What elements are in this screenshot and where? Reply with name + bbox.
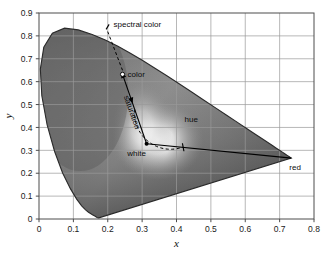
chromaticity-diagram-figure: 00.10.20.30.40.50.60.70.8 00.10.20.30.40… [0,0,333,260]
white-point-marker [145,142,149,146]
x-tick-labels: 00.10.20.30.40.50.60.70.8 [37,224,321,234]
x-tick-label: 0.5 [205,224,217,234]
y-tick-label: 0.8 [21,31,33,41]
y-tick-label: 0.6 [21,77,33,87]
x-tick-label: 0.8 [308,224,320,234]
x-tick-label: 0.3 [136,224,148,234]
spectral-color-label: spectral color [114,20,162,29]
x-tick-label: 0.2 [102,224,114,234]
y-tick-label: 0.3 [21,146,33,156]
white-label: white [126,149,146,158]
y-tick-label: 0.7 [21,54,33,64]
y-tick-label: 0.5 [21,100,33,110]
y-tick-label: 0.2 [21,168,33,178]
x-tick-label: 0.4 [171,224,183,234]
y-tick-label: 0 [28,214,33,224]
y-axis-title: y [2,113,14,119]
x-tick-label: 0 [37,224,42,234]
red-label: red [289,163,301,172]
x-axis-title: x [173,237,179,249]
x-tick-label: 0.1 [67,224,79,234]
x-tick-label: 0.7 [274,224,286,234]
x-tick-label: 0.6 [239,224,251,234]
y-tick-labels: 00.10.20.30.40.50.60.70.80.9 [21,8,33,224]
y-tick-label: 0.1 [21,191,33,201]
chart-svg: 00.10.20.30.40.50.60.70.8 00.10.20.30.40… [0,0,333,260]
y-tick-label: 0.4 [21,123,33,133]
color-label: color [128,70,146,79]
hue-label: hue [185,115,199,124]
y-tick-label: 0.9 [21,8,33,18]
color-point-marker [120,72,124,76]
